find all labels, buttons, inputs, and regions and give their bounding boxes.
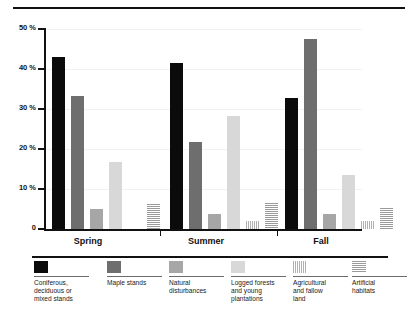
bar [380,208,393,229]
y-axis-tick-label: 40 % [2,64,36,72]
bar-group-fall [285,29,399,229]
bar [208,214,221,229]
y-axis-tick-label: 10 % [2,184,36,192]
legend-swatch-solid-dark-icon [107,261,121,273]
y-axis-tick-label: 50 % [2,24,36,32]
y-axis-tick [38,148,45,150]
legend-label: Maple stands [107,279,169,287]
legend-underline [169,276,224,277]
legend-item: Agricultural and fallow land [293,261,355,304]
legend-underline [293,276,348,277]
y-axis-tick [38,228,45,230]
legend-underline [231,276,286,277]
legend-underline [107,276,162,277]
chart-plot-area: 50 %40 %30 %20 %10 %0 SpringSummerFall [0,0,414,255]
legend-item: Logged forests and young plantations [231,261,293,304]
bar [90,209,103,229]
y-axis-tick [38,28,45,30]
bar [246,221,259,229]
bar [71,96,84,229]
bar-group-spring [52,29,166,229]
chart-legend: Coniferous, deciduous or mixed standsMap… [0,256,414,323]
bar [170,63,183,229]
legend-label: Artificial habitats [352,279,414,295]
bar [304,39,317,229]
bar [109,162,122,229]
bar [285,98,298,229]
category-label-summer: Summer [166,236,246,246]
legend-label: Natural disturbances [169,279,231,295]
y-axis-tick [38,188,45,190]
y-axis-tick [38,68,45,70]
bar [52,57,65,229]
legend-swatch-vertical-stripes-icon [293,261,307,273]
bar [265,203,278,229]
category-label-fall: Fall [281,236,361,246]
legend-swatch-horizontal-stripes-icon [352,261,366,273]
category-label-spring: Spring [48,236,128,246]
bar [189,142,202,229]
y-axis-tick-label: 20 % [2,144,36,152]
legend-label: Agricultural and fallow land [293,279,355,304]
legend-item: Coniferous, deciduous or mixed stands [34,261,96,304]
legend-underline [34,276,89,277]
x-axis-line [44,229,362,231]
group-separator-tick [160,231,161,236]
legend-item: Natural disturbances [169,261,231,295]
y-axis-tick [38,108,45,110]
legend-label: Logged forests and young plantations [231,279,293,304]
bar [342,175,355,229]
bar [361,221,374,229]
y-axis-tick-label: 0 [2,224,36,232]
bar-group-summer [170,29,284,229]
legend-item: Maple stands [107,261,169,287]
legend-swatch-solid-light-icon [231,261,245,273]
bar [323,214,336,229]
bar [147,204,160,229]
legend-divider-rule [32,256,388,258]
legend-swatch-solid-medium-icon [169,261,183,273]
legend-label: Coniferous, deciduous or mixed stands [34,279,96,304]
bar [227,116,240,229]
y-axis-line [44,28,46,230]
legend-underline [352,276,407,277]
legend-item: Artificial habitats [352,261,414,295]
y-axis-tick-label: 30 % [2,104,36,112]
group-separator-tick [277,231,278,236]
legend-swatch-solid-black-icon [34,261,48,273]
